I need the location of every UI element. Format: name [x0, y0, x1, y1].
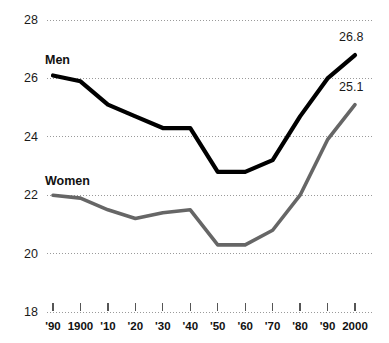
y-axis-label-20: 20: [12, 248, 38, 261]
y-axis-label-18: 18: [12, 306, 38, 319]
gridlines-group: [47, 20, 372, 312]
y-axis-label-22: 22: [12, 189, 38, 202]
y-axis-label-24: 24: [12, 131, 38, 144]
x-axis-label-2000: 2000: [342, 321, 368, 333]
x-axis-label-1900: 1900: [68, 321, 94, 333]
x-axis-label-1920: '20: [128, 321, 144, 333]
y-axis-label-26: 26: [12, 72, 38, 85]
end-value-label-women: 25.1: [339, 81, 363, 94]
x-axis-label-1910: '10: [100, 321, 116, 333]
x-axis-label-1960: '60: [237, 321, 253, 333]
chart-plot-area: [0, 0, 389, 343]
series-lines-group: [53, 55, 355, 245]
series-label-men: Men: [45, 54, 70, 67]
end-value-label-men: 26.8: [339, 31, 363, 44]
line-chart: 182022242628 '901900'10'20'30'40'50'60'7…: [0, 0, 389, 343]
x-axis-label-1940: '40: [183, 321, 199, 333]
series-line-women: [53, 105, 355, 245]
series-line-men: [53, 55, 355, 172]
x-axis-label-1970: '70: [265, 321, 281, 333]
y-axis-label-28: 28: [12, 14, 38, 27]
series-label-women: Women: [45, 175, 90, 188]
x-axis-label-1930: '30: [155, 321, 171, 333]
x-axis-label-1990: '90: [320, 321, 336, 333]
x-axis-label-1890: '90: [45, 321, 61, 333]
x-axis-label-1950: '50: [210, 321, 226, 333]
x-tickmarks-group: [53, 303, 355, 311]
x-axis-label-1980: '80: [292, 321, 308, 333]
